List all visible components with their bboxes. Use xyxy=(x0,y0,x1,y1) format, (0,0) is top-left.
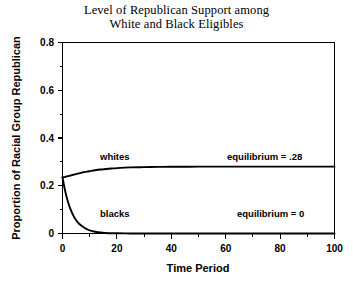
x-tick-label-20: 20 xyxy=(111,243,123,254)
y-tick-label-0.2: 0.2 xyxy=(40,180,54,191)
series-label-blacks: blacks xyxy=(100,208,130,219)
series-label-whites: whites xyxy=(99,151,130,162)
y-axis-title: Proportion of Racial Group Republican xyxy=(10,36,22,240)
y-tick-label-0.4: 0.4 xyxy=(40,133,54,144)
x-tick-label-40: 40 xyxy=(166,243,178,254)
data-series-group xyxy=(63,167,335,234)
chart-annotations: whites blacks equilibrium = .28 equilibr… xyxy=(99,151,304,219)
series-curve-blacks xyxy=(63,177,335,233)
y-axis-major-ticks xyxy=(58,43,63,234)
annotation-equilibrium-whites: equilibrium = .28 xyxy=(227,151,302,162)
x-tick-label-80: 80 xyxy=(275,243,287,254)
x-axis-title: Time Period xyxy=(167,262,230,274)
y-tick-label-0.8: 0.8 xyxy=(40,37,54,48)
x-tick-label-0: 0 xyxy=(60,243,66,254)
x-axis-tick-labels: 0 20 40 60 80 100 xyxy=(60,243,344,254)
chart-screenshot: Level of Republican Support among White … xyxy=(0,0,353,283)
annotation-equilibrium-blacks: equilibrium = 0 xyxy=(237,208,304,219)
y-axis-tick-labels: 0.8 0.6 0.4 0.2 0 xyxy=(40,37,54,239)
axis-frame xyxy=(63,43,335,234)
chart-plot-area: 0.8 0.6 0.4 0.2 0 0 20 40 60 xyxy=(0,0,353,283)
x-tick-label-60: 60 xyxy=(220,243,232,254)
series-curve-whites xyxy=(63,167,335,178)
x-tick-label-100: 100 xyxy=(326,243,343,254)
y-tick-label-0: 0 xyxy=(48,228,54,239)
y-tick-label-0.6: 0.6 xyxy=(40,85,54,96)
